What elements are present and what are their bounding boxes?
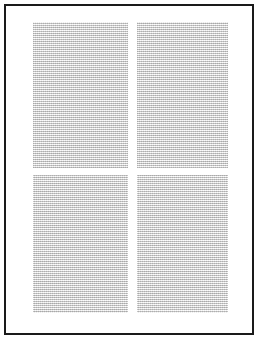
text-block-bottom-right — [137, 175, 228, 313]
text-block-bottom-left — [33, 175, 128, 313]
text-block-top-left-content — [33, 22, 128, 168]
text-block-top-right — [137, 22, 228, 168]
scanned-page — [0, 0, 260, 343]
text-block-top-left — [33, 22, 128, 168]
text-block-top-right-content — [137, 22, 228, 168]
text-block-bottom-right-content — [137, 175, 228, 313]
text-block-bottom-left-content — [33, 175, 128, 313]
